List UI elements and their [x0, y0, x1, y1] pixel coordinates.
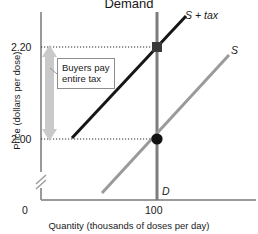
supply-curve-line	[102, 55, 229, 193]
equilibrium-with-tax-marker	[152, 42, 162, 52]
y-tick-label-220: 2.20	[11, 42, 31, 53]
tax-gap-arrow-icon	[42, 45, 57, 141]
curve-label-s-plus-tax: S + tax	[185, 10, 218, 21]
x-tick-label-100: 100	[145, 205, 163, 216]
annotation-line-1: Buyers pay	[62, 62, 110, 73]
x-axis-title: Quantity (thousands of doses per day)	[0, 221, 258, 231]
chart-plot-area	[0, 0, 258, 234]
y-axis-break-icon	[36, 175, 46, 189]
equilibrium-without-tax-marker	[151, 133, 162, 144]
chart-title: Demand	[0, 0, 258, 10]
y-tick-label-200: 2.00	[11, 134, 31, 145]
annotation-buyers-pay-entire-tax: Buyers pay entire tax	[57, 58, 115, 89]
annotation-line-2: entire tax	[62, 73, 110, 84]
supply-demand-chart: Demand Price (dollars per dose) Quantity…	[0, 0, 258, 234]
x-tick-label-0: 0	[22, 205, 28, 216]
curve-label-s: S	[231, 45, 238, 56]
curve-label-d: D	[162, 186, 170, 197]
